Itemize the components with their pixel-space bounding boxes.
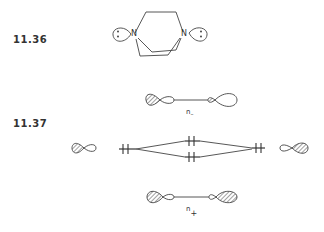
figure-label-11-36: 11.36 [13, 34, 47, 45]
lone-pair-lobe-right [189, 28, 207, 41]
n-minus-subscript: – [190, 110, 193, 117]
energy-level-diagram [72, 141, 308, 157]
orbital-diagram [0, 0, 324, 232]
n-minus-label: n– [186, 108, 193, 117]
figure-label-11-37: 11.37 [13, 118, 47, 129]
n-plus-orbital [147, 191, 237, 202]
diazabicyclo-molecule [113, 12, 207, 56]
n-minus-orbital [146, 94, 237, 107]
nitrogen-atom-right: N [181, 29, 187, 38]
nitrogen-atom-left: N [131, 29, 137, 38]
n-plus-label: n+ [186, 205, 197, 218]
n-plus-subscript: + [190, 209, 197, 218]
lone-pair-lobe-left [113, 28, 131, 41]
